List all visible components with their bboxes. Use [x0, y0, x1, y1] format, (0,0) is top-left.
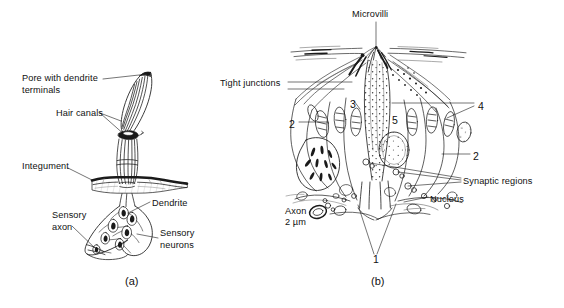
label-dendrite: Dendrite	[152, 198, 188, 210]
cuticle-surface-left	[291, 46, 362, 60]
label-nucleus: Nucleus	[430, 194, 464, 206]
integument-layer	[92, 177, 188, 193]
label-axon-scale: 2 µm	[285, 217, 306, 229]
leader-region-1	[358, 204, 396, 254]
cuticle-surface-right	[388, 47, 466, 62]
label-hair-canals: Hair canals	[56, 108, 103, 120]
panel-b-artwork	[286, 22, 474, 254]
label-region-2-left: 2	[289, 118, 295, 130]
nucleus-structure	[379, 132, 409, 168]
neuron-cell-bodies	[93, 207, 137, 254]
axon-profile	[308, 199, 335, 221]
label-region-4: 4	[478, 100, 484, 112]
label-microvilli: Microvilli	[352, 9, 388, 21]
figure-artwork	[0, 0, 564, 308]
label-region-3: 3	[350, 98, 356, 110]
leader-integument	[68, 168, 92, 180]
label-synaptic-regions: Synaptic regions	[463, 176, 533, 188]
hair-shaft-lower	[117, 139, 138, 188]
figure-root: Pore with dendrite terminals Hair canals…	[0, 0, 564, 308]
hair-socket-collar	[118, 131, 143, 140]
sheath-lines-right	[385, 55, 450, 112]
label-region-5: 5	[392, 114, 398, 126]
cell-body-left	[296, 138, 339, 191]
label-pore-with-dendrite-terminals: Pore with dendrite terminals	[22, 73, 98, 96]
label-tight-junctions: Tight junctions	[220, 78, 280, 90]
label-integument: Integument	[22, 161, 69, 173]
hair-shaft-upper	[121, 72, 152, 136]
label-region-1: 1	[373, 253, 379, 265]
leader-region-4	[392, 103, 474, 118]
nucleus-upper-right	[456, 121, 473, 143]
label-sensory-neurons: Sensory neurons	[160, 228, 194, 251]
label-axon: Axon	[285, 206, 306, 218]
leader-dendrite	[128, 202, 150, 213]
label-region-2-right: 2	[473, 150, 479, 162]
leader-sensory-neurons	[137, 234, 158, 238]
caption-panel-a: (a)	[125, 275, 138, 287]
sensory-neuron-cluster	[85, 194, 152, 260]
caption-panel-b: (b)	[371, 275, 384, 287]
label-sensory-axon: Sensory axon	[52, 210, 86, 233]
